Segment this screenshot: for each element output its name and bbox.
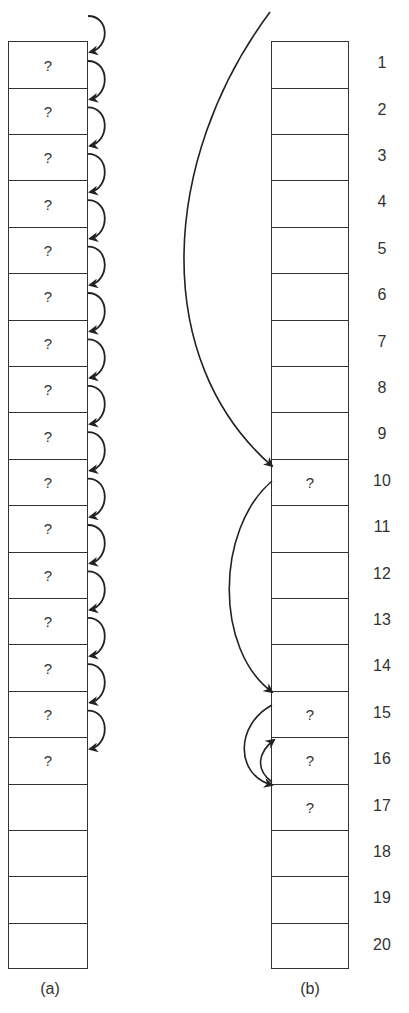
sequential-arrow bbox=[88, 61, 105, 99]
sequential-arrow bbox=[88, 479, 105, 517]
sequential-arrow bbox=[88, 432, 105, 470]
entry-jump-arrow bbox=[184, 12, 272, 466]
sequential-arrow bbox=[88, 664, 105, 702]
panel-b-jump-arrows bbox=[184, 12, 274, 785]
sequential-arrow bbox=[88, 16, 105, 52]
jump-arrow-17-to-16 bbox=[261, 740, 274, 782]
arrows-layer bbox=[0, 0, 409, 1013]
sequential-arrow bbox=[88, 386, 105, 424]
sequential-arrow bbox=[88, 107, 105, 145]
sequential-arrow bbox=[88, 571, 105, 609]
sequential-arrow bbox=[88, 525, 105, 563]
sequential-arrow bbox=[88, 200, 105, 238]
sequential-arrow bbox=[88, 154, 105, 192]
sequential-arrow bbox=[88, 247, 105, 285]
sequential-arrow bbox=[88, 293, 105, 331]
jump-arrow-10-to-15 bbox=[229, 481, 272, 692]
sequential-arrow bbox=[88, 618, 105, 656]
panel-a-sequential-arrows bbox=[88, 16, 105, 749]
sequential-arrow bbox=[88, 711, 105, 749]
sequential-arrow bbox=[88, 339, 105, 377]
